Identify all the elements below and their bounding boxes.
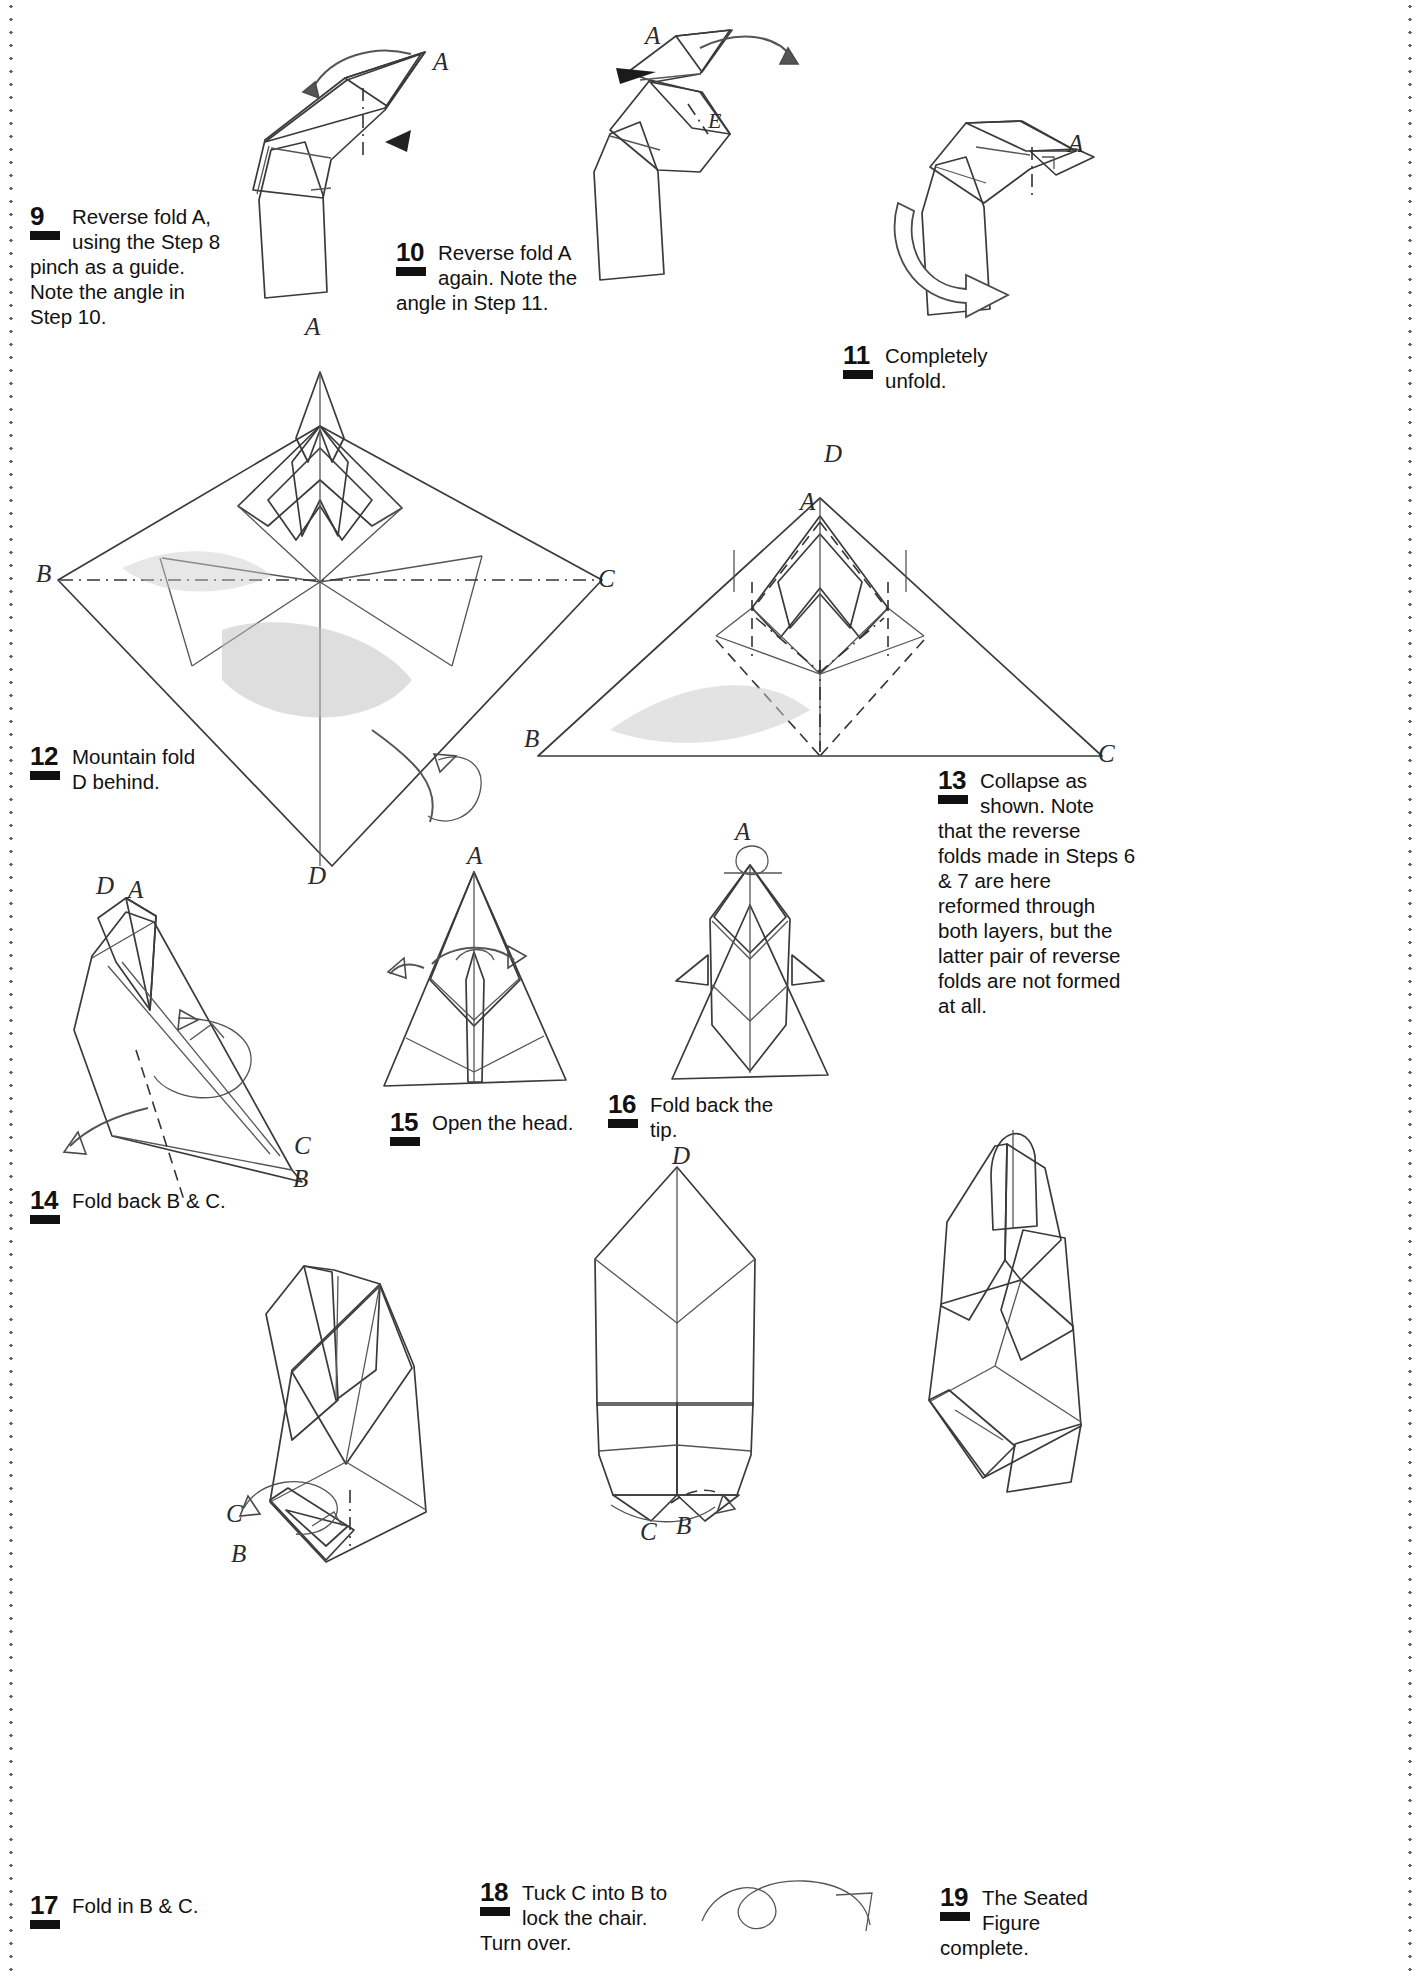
origami-instruction-page: A A E — [0, 0, 1426, 1977]
step-18-marker: 18 — [480, 1880, 513, 1930]
step-18-line-2: lock the chair. — [522, 1905, 710, 1930]
step-12-number: 12 — [30, 744, 63, 769]
diagram-step-10 — [580, 22, 860, 302]
caption-step-17: 17 Fold in B & C. — [30, 1893, 290, 1929]
step-13-number: 13 — [938, 768, 971, 793]
step-13-line-9: folds are not formed — [938, 968, 1138, 993]
step-12-rule — [30, 771, 60, 780]
step-16-number: 16 — [608, 1092, 641, 1117]
diagram-step-17 — [230, 1250, 530, 1580]
step-13-marker: 13 — [938, 768, 971, 818]
step-12-line-1: Mountain fold — [72, 744, 250, 769]
step-10-line-3: angle in Step 11. — [396, 290, 596, 315]
step-13-line-10: at all. — [938, 993, 1138, 1018]
step-18-rule — [480, 1907, 510, 1916]
step-10-line-2: again. Note the — [438, 265, 596, 290]
step-19-line-3: complete. — [940, 1935, 1140, 1960]
step-19-marker: 19 — [940, 1885, 973, 1935]
caption-step-18: 18 Tuck C into B to lock the chair. Turn… — [480, 1880, 710, 1955]
label-step16-A: A — [735, 818, 750, 846]
label-step18-D: D — [672, 1142, 690, 1170]
caption-step-14: 14 Fold back B & C. — [30, 1188, 290, 1224]
diagram-step-15 — [370, 860, 590, 1100]
label-step9-A: A — [433, 48, 448, 76]
label-step10-E: E — [708, 108, 721, 134]
caption-step-13: 13 Collapse as shown. Note that the reve… — [938, 768, 1138, 1018]
label-step17-C: C — [226, 1500, 243, 1528]
step-11-number: 11 — [843, 343, 876, 368]
step-13-rule — [938, 795, 968, 804]
step-17-number: 17 — [30, 1893, 63, 1918]
step-19-number: 19 — [940, 1885, 973, 1910]
step-9-number: 9 — [30, 204, 63, 229]
step-10-number: 10 — [396, 240, 429, 265]
caption-step-9: 9 Reverse fold A, using the Step 8 pinch… — [30, 204, 230, 329]
step-17-marker: 17 — [30, 1893, 63, 1929]
step-16-marker: 16 — [608, 1092, 641, 1142]
step-9-marker: 9 — [30, 204, 63, 254]
label-step14-A: A — [128, 876, 143, 904]
step-11-line-2: unfold. — [885, 368, 1043, 393]
step-9-line-1: Reverse fold A, — [72, 204, 230, 229]
step-15-line-1: Open the head. — [432, 1110, 630, 1135]
step-17-rule — [30, 1920, 60, 1929]
step-9-line-2: using the Step 8 — [72, 229, 230, 254]
caption-step-19: 19 The Seated Figure complete. — [940, 1885, 1140, 1960]
label-step13-D: D — [824, 440, 842, 468]
label-step11-A: A — [1068, 130, 1083, 158]
step-10-rule — [396, 267, 426, 276]
step-13-line-7: both layers, but the — [938, 918, 1138, 943]
diagram-step-16 — [640, 835, 860, 1100]
step-16-line-1: Fold back the — [650, 1092, 808, 1117]
step-19-rule — [940, 1912, 970, 1921]
step-19-line-1: The Seated — [982, 1885, 1140, 1910]
step-12-marker: 12 — [30, 744, 63, 794]
step-13-line-8: latter pair of reverse — [938, 943, 1138, 968]
step-9-line-4: Note the angle in — [30, 279, 230, 304]
diagram-step-19 — [895, 1110, 1155, 1530]
caption-step-16: 16 Fold back the tip. — [608, 1092, 808, 1142]
step-13-line-5: & 7 are here — [938, 868, 1138, 893]
step-9-line-3: pinch as a guide. — [30, 254, 230, 279]
step-15-number: 15 — [390, 1110, 423, 1135]
step-16-line-2: tip. — [650, 1117, 808, 1142]
step-16-rule — [608, 1119, 638, 1128]
step-10-line-1: Reverse fold A — [438, 240, 596, 265]
step-17-line-1: Fold in B & C. — [72, 1893, 290, 1918]
right-margin-dotted-rule — [1408, 0, 1412, 1977]
step-14-rule — [30, 1215, 60, 1224]
label-step14-B: B — [293, 1165, 308, 1193]
step-14-number: 14 — [30, 1188, 63, 1213]
label-step15-A: A — [467, 842, 482, 870]
step-13-line-2: shown. Note — [980, 793, 1138, 818]
step-15-marker: 15 — [390, 1110, 423, 1146]
step-14-line-1: Fold back B & C. — [72, 1188, 290, 1213]
diagram-step-13 — [520, 460, 1120, 790]
left-margin-dotted-rule — [9, 0, 13, 1977]
label-step18-C: C — [640, 1518, 657, 1546]
step-9-line-5: Step 10. — [30, 304, 230, 329]
step-15-rule — [390, 1137, 420, 1146]
step-18-number: 18 — [480, 1880, 513, 1905]
label-step13-C: C — [1098, 740, 1115, 768]
step-11-line-1: Completely — [885, 343, 1043, 368]
label-step12-A: A — [305, 313, 320, 341]
caption-step-11: 11 Completely unfold. — [843, 343, 1043, 393]
step-11-marker: 11 — [843, 343, 876, 393]
step-19-line-2: Figure — [982, 1910, 1140, 1935]
caption-step-10: 10 Reverse fold A again. Note the angle … — [396, 240, 596, 315]
label-step17-B: B — [231, 1540, 246, 1568]
label-step12-B: B — [36, 560, 51, 588]
label-step13-A: A — [800, 488, 815, 516]
label-step18-B: B — [676, 1512, 691, 1540]
step-13-line-4: folds made in Steps 6 — [938, 843, 1138, 868]
step-13-line-1: Collapse as — [980, 768, 1138, 793]
diagram-step-18 — [555, 1155, 785, 1535]
turn-over-arrow — [700, 1855, 900, 1965]
label-step13-B: B — [524, 725, 539, 753]
step-14-marker: 14 — [30, 1188, 63, 1224]
step-9-rule — [30, 231, 60, 240]
step-12-line-2: D behind. — [72, 769, 250, 794]
step-18-line-3: Turn over. — [480, 1930, 710, 1955]
step-11-rule — [843, 370, 873, 379]
